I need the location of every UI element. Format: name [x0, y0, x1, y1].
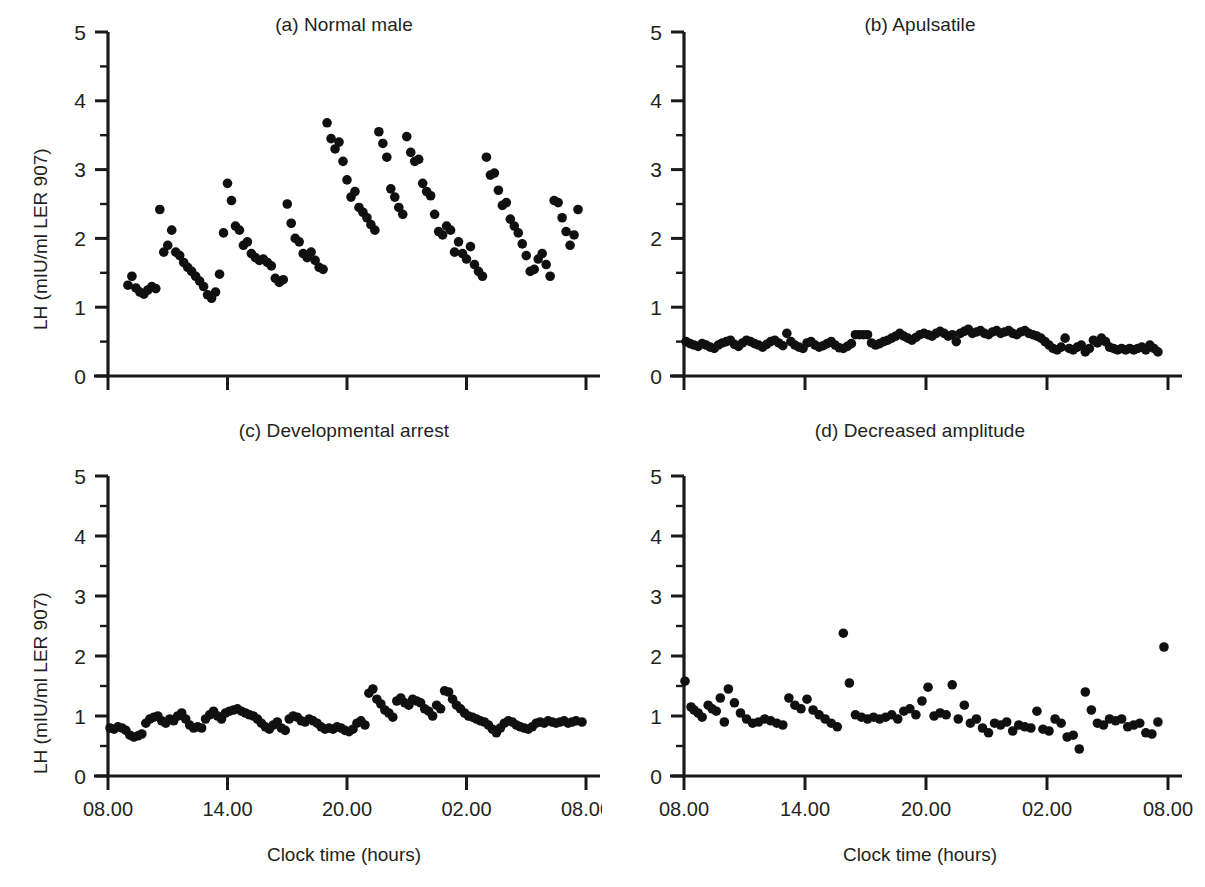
data-point	[378, 139, 388, 149]
data-point	[219, 228, 229, 238]
y-tick-label: 1	[650, 705, 662, 728]
y-tick-label: 5	[650, 465, 662, 488]
data-point	[426, 191, 436, 201]
data-point	[446, 225, 456, 235]
data-point	[947, 680, 957, 690]
panel-c: (c) Developmental arrest LH (mIU/ml LER …	[0, 444, 602, 887]
data-point	[1026, 723, 1036, 733]
data-point	[386, 184, 396, 194]
y-tick-label: 4	[650, 89, 662, 112]
data-point	[402, 132, 412, 142]
data-point	[382, 152, 392, 162]
data-point	[462, 254, 472, 264]
data-point	[137, 729, 147, 739]
y-tick-label: 2	[74, 227, 86, 250]
data-point	[573, 205, 583, 215]
data-point	[545, 271, 555, 281]
data-point	[482, 152, 492, 162]
data-point	[697, 712, 707, 722]
panel-d-x-axis-label: Clock time (hours)	[680, 844, 1160, 866]
data-point	[342, 175, 352, 185]
data-point	[1153, 347, 1163, 357]
x-tick-label: 08.00	[659, 798, 709, 820]
data-point	[730, 698, 740, 708]
data-point	[390, 192, 400, 202]
panel-c-x-axis-label: Clock time (hours)	[104, 844, 584, 866]
data-point	[267, 261, 277, 271]
data-point	[466, 242, 476, 252]
data-point	[278, 275, 288, 285]
data-point	[863, 330, 873, 340]
y-tick-label: 0	[74, 765, 86, 788]
data-point	[1147, 729, 1157, 739]
panel-c-title: (c) Developmental arrest	[104, 420, 584, 442]
data-point	[960, 700, 970, 710]
y-tick-label: 5	[74, 465, 86, 488]
data-point	[724, 684, 734, 694]
data-point	[513, 228, 523, 238]
data-point	[941, 710, 951, 720]
panel-b: (b) Apulsatile 012345	[602, 0, 1205, 444]
data-point	[428, 711, 438, 721]
data-point	[306, 247, 316, 257]
data-point	[360, 720, 370, 730]
data-point	[163, 240, 173, 250]
data-point	[223, 179, 233, 189]
data-point	[334, 137, 344, 147]
data-point	[1117, 714, 1127, 724]
data-point	[318, 265, 328, 275]
data-point	[541, 260, 551, 270]
data-point	[923, 682, 933, 692]
x-tick-label: 20.00	[322, 798, 372, 820]
x-tick-label: 14.00	[202, 798, 252, 820]
y-tick-label: 0	[650, 765, 662, 788]
y-tick-label: 2	[650, 227, 662, 250]
data-point	[286, 218, 296, 228]
data-point	[1056, 342, 1066, 352]
data-point	[517, 239, 527, 249]
y-tick-label: 5	[650, 21, 662, 44]
data-point	[199, 282, 209, 292]
y-tick-label: 1	[74, 705, 86, 728]
data-point	[1044, 726, 1054, 736]
data-point	[502, 198, 512, 208]
data-point	[845, 678, 855, 688]
data-point	[1153, 717, 1163, 727]
data-point	[418, 179, 428, 189]
y-tick-label: 1	[650, 296, 662, 319]
data-point	[1135, 718, 1145, 728]
data-point	[450, 247, 460, 257]
y-tick-label: 1	[74, 296, 86, 319]
panel-a: (a) Normal male LH (mIU/ml LER 907) 0123…	[0, 0, 602, 444]
x-tick-label: 08.00	[83, 798, 133, 820]
data-point	[438, 230, 448, 240]
data-point	[537, 249, 547, 259]
panel-d-plot: 01234508.0014.0020.0002.0008.00	[602, 444, 1205, 887]
data-point	[243, 237, 253, 247]
data-point	[917, 696, 927, 706]
data-point	[127, 271, 137, 281]
figure-root: (a) Normal male LH (mIU/ml LER 907) 0123…	[0, 0, 1205, 887]
data-point	[893, 714, 903, 724]
data-point	[1056, 718, 1066, 728]
data-point	[1032, 706, 1042, 716]
y-tick-label: 3	[74, 585, 86, 608]
data-point	[388, 712, 398, 722]
data-point	[577, 717, 587, 727]
data-point	[1159, 642, 1169, 652]
data-point	[368, 684, 378, 694]
data-point	[1060, 333, 1070, 343]
data-point-group	[680, 628, 1169, 753]
y-tick-label: 3	[650, 585, 662, 608]
x-tick-label: 14.00	[780, 798, 830, 820]
data-point	[1002, 717, 1012, 727]
data-point	[711, 706, 721, 716]
data-point	[414, 154, 424, 164]
data-point	[215, 269, 225, 279]
data-point	[951, 337, 961, 347]
x-tick-label: 02.00	[441, 798, 491, 820]
data-point	[294, 237, 304, 247]
data-point	[155, 205, 165, 215]
panel-b-plot: 012345	[602, 0, 1205, 444]
x-tick-label: 20.00	[901, 798, 951, 820]
